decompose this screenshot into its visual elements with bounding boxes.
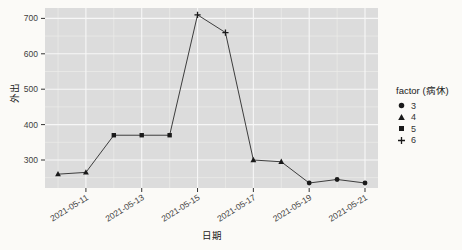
x-tick-label: 2021-05-21	[327, 192, 369, 224]
x-tick-label: 2021-05-11	[48, 192, 90, 223]
legend-key-plus-icon	[396, 136, 407, 145]
point-circle	[363, 181, 368, 186]
y-tick-label: 600	[24, 49, 38, 59]
x-tick-label: 2021-05-15	[159, 192, 201, 224]
x-tick-label: 2021-05-19	[271, 192, 313, 224]
legend-item-label: 6	[411, 135, 416, 145]
legend-item: 4	[396, 112, 460, 124]
legend-item: 6	[396, 135, 460, 147]
y-tick-label: 400	[24, 120, 38, 130]
point-circle	[307, 181, 312, 186]
chart-canvas: 3004005006007002021-05-112021-05-132021-…	[0, 0, 462, 250]
point-square	[112, 133, 116, 137]
y-tick-label: 500	[24, 84, 38, 94]
legend-key-square-icon	[396, 124, 407, 133]
legend-item: 3	[396, 100, 460, 112]
point-circle	[399, 103, 405, 109]
legend: factor (病休) 3456	[396, 83, 460, 146]
y-tick-label: 700	[24, 13, 38, 23]
point-triangle	[398, 114, 405, 120]
legend-key-triangle-icon	[396, 113, 407, 122]
x-tick-label: 2021-05-17	[215, 192, 257, 224]
legend-item: 5	[396, 123, 460, 135]
legend-item-label: 5	[411, 124, 416, 134]
legend-item-label: 4	[411, 112, 416, 122]
legend-items: 3456	[396, 100, 460, 146]
x-tick-label: 2021-05-13	[104, 192, 146, 224]
y-axis-title: 外出	[7, 83, 21, 103]
y-tick-label: 300	[24, 155, 38, 165]
point-plus	[398, 137, 405, 144]
point-square	[399, 126, 404, 131]
point-circle	[335, 177, 340, 182]
point-square	[167, 133, 171, 137]
point-square	[140, 133, 144, 137]
legend-title: factor (病休)	[396, 83, 460, 97]
legend-key-circle-icon	[396, 101, 407, 110]
legend-item-label: 3	[411, 101, 416, 111]
line-chart: 3004005006007002021-05-112021-05-132021-…	[0, 0, 462, 250]
x-axis-title: 日期	[186, 228, 238, 242]
